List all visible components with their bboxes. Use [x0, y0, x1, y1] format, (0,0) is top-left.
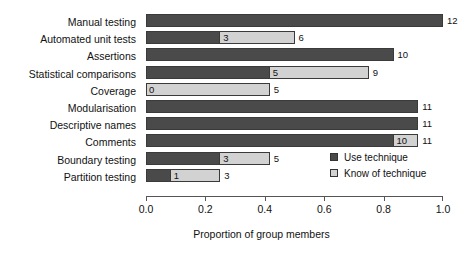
- bar-row: 11: [146, 100, 443, 117]
- bar-row: 12: [146, 14, 443, 31]
- chart-legend: Use techniqueKnow of technique: [330, 150, 426, 182]
- category-label: Manual testing: [0, 14, 141, 31]
- bar-value-end: 11: [422, 117, 432, 130]
- bar-value-use: 10: [394, 134, 408, 147]
- bar-value-use: 3: [220, 152, 228, 165]
- bar-segment-use: [146, 117, 418, 130]
- x-axis-tick: [205, 196, 206, 201]
- x-axis-tick-label: 0.0: [139, 203, 154, 215]
- bar-value-end: 11: [422, 134, 432, 147]
- legend-item: Know of technique: [330, 166, 426, 180]
- bar-segment-use: [146, 31, 220, 44]
- legend-swatch-icon: [330, 153, 338, 161]
- bar-segment-use: [146, 169, 171, 182]
- bar-row: 11: [146, 117, 443, 134]
- bar-chart: Manual testingAutomated unit testsAssert…: [0, 0, 475, 256]
- bar-value-use: 3: [220, 31, 228, 44]
- bar-row: 59: [146, 66, 443, 83]
- bar-value-use: 1: [171, 169, 179, 182]
- x-axis-tick-label: 0.8: [376, 203, 391, 215]
- x-axis-tick: [324, 196, 325, 201]
- bar-value-end: 10: [398, 48, 409, 61]
- bar-segment-use: [146, 134, 394, 147]
- category-label: Coverage: [0, 83, 141, 100]
- category-label: Modularisation: [0, 100, 141, 117]
- x-axis-tick: [384, 196, 385, 201]
- bar-row: 05: [146, 83, 443, 100]
- bar-value-end: 5: [274, 152, 279, 165]
- x-axis-line: 0.00.20.40.60.81.0: [146, 196, 443, 197]
- category-label: Assertions: [0, 48, 141, 65]
- bar-value-end: 3: [224, 169, 229, 182]
- category-label: Automated unit tests: [0, 31, 141, 48]
- x-axis-title: Proportion of group members: [0, 228, 475, 240]
- legend-label: Know of technique: [344, 168, 426, 179]
- bar-value-end: 9: [373, 66, 378, 79]
- x-axis-tick-label: 0.6: [317, 203, 332, 215]
- bar-value-end: 6: [299, 31, 304, 44]
- bar-segment-know: [146, 83, 270, 96]
- bar-segment-use: [146, 66, 270, 79]
- bar-segment-use: [146, 152, 220, 165]
- x-axis-tick-label: 1.0: [436, 203, 451, 215]
- x-axis-tick: [146, 196, 147, 201]
- x-axis-tick: [442, 196, 443, 201]
- x-axis-tick: [265, 196, 266, 201]
- bar-value-end: 5: [274, 83, 279, 96]
- category-label: Partition testing: [0, 169, 141, 186]
- x-axis-tick-label: 0.4: [257, 203, 272, 215]
- legend-label: Use technique: [344, 152, 408, 163]
- category-label: Descriptive names: [0, 117, 141, 134]
- bar-row: 1011: [146, 134, 443, 151]
- bar-segment-use: [146, 14, 443, 27]
- legend-swatch-icon: [330, 169, 338, 177]
- legend-item: Use technique: [330, 150, 426, 164]
- bar-segment-use: [146, 100, 418, 113]
- bar-row: 36: [146, 31, 443, 48]
- bar-value-end: 11: [422, 100, 432, 113]
- category-axis-labels: Manual testingAutomated unit testsAssert…: [0, 14, 141, 186]
- x-axis-tick-label: 0.2: [198, 203, 213, 215]
- category-label: Comments: [0, 134, 141, 151]
- bar-value-use: 5: [270, 66, 278, 79]
- bar-value-use: 0: [146, 83, 154, 96]
- category-label: Boundary testing: [0, 152, 141, 169]
- bar-segment-use: [146, 48, 394, 61]
- bar-value-end: 12: [447, 14, 458, 27]
- x-axis-title-text: Proportion of group members: [193, 228, 330, 240]
- bar-row: 10: [146, 48, 443, 65]
- category-label: Statistical comparisons: [0, 66, 141, 83]
